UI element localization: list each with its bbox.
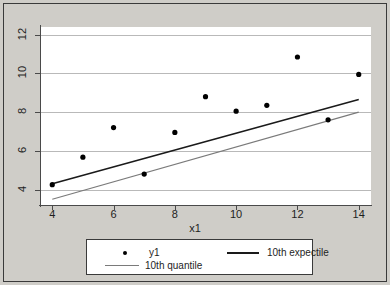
- legend-line-swatch: [105, 265, 139, 266]
- data-point: [50, 182, 55, 187]
- chart-legend: y110th expectile10th quantile: [86, 239, 313, 275]
- y-tick-mark-6: [35, 151, 40, 152]
- data-point: [325, 117, 330, 122]
- data-point: [234, 109, 239, 114]
- y-tick-label-6: 6: [16, 139, 28, 161]
- y-tick-label-4: 4: [16, 178, 28, 200]
- x-axis-line: [39, 205, 372, 206]
- y-tick-label-8: 8: [16, 100, 28, 122]
- x-tick-label-10: 10: [224, 208, 248, 220]
- x-tick-label-8: 8: [163, 208, 187, 220]
- data-point: [142, 171, 147, 176]
- legend-label-y1: y1: [149, 247, 160, 258]
- y-tick-label-10: 10: [16, 61, 28, 83]
- y-axis-line: [40, 25, 41, 207]
- data-point: [111, 125, 116, 130]
- data-point: [80, 155, 85, 160]
- legend-dot-icon: [123, 251, 127, 255]
- x-tick-label-12: 12: [285, 208, 309, 220]
- x-axis-title: x1: [0, 222, 390, 234]
- chart-figure: 4681012 468101214 x1 y110th expectile10t…: [0, 0, 390, 285]
- plot-area: [40, 27, 371, 205]
- data-point: [356, 72, 361, 77]
- legend-label-10th-expectile: 10th expectile: [267, 247, 329, 258]
- y-tick-mark-10: [35, 73, 40, 74]
- legend-label-10th-quantile: 10th quantile: [145, 260, 202, 271]
- y-tick-mark-12: [35, 35, 40, 36]
- scatter-points: [40, 27, 371, 205]
- data-point: [203, 94, 208, 99]
- y-tick-mark-4: [35, 190, 40, 191]
- y-tick-mark-8: [35, 112, 40, 113]
- x-tick-label-14: 14: [347, 208, 371, 220]
- x-tick-label-4: 4: [40, 208, 64, 220]
- x-tick-label-6: 6: [102, 208, 126, 220]
- data-point: [172, 130, 177, 135]
- data-point: [295, 54, 300, 59]
- legend-line-swatch: [227, 252, 259, 254]
- y-tick-label-12: 12: [16, 23, 28, 45]
- data-point: [264, 103, 269, 108]
